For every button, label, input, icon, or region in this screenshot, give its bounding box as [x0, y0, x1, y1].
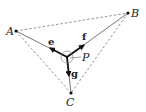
fermat-point-diagram: A B C P e f g: [0, 0, 146, 112]
label-vector-e: e: [48, 36, 54, 47]
label-a: A: [5, 25, 14, 38]
label-vector-g: g: [71, 68, 78, 79]
vector-e-arrow: [50, 48, 67, 57]
point-c-dot: [69, 91, 72, 94]
unit-vectors: [50, 45, 84, 76]
edge-ab: [16, 13, 128, 31]
label-c: C: [66, 96, 75, 109]
label-p: P: [81, 51, 90, 64]
point-b-dot: [126, 11, 129, 14]
vector-g-arrow: [67, 57, 69, 76]
point-p-dot: [66, 56, 68, 58]
p-leader-line: [70, 57, 81, 58]
edge-bc: [71, 13, 128, 93]
edge-ac: [16, 31, 71, 93]
label-vector-f: f: [82, 31, 87, 42]
point-a-dot: [14, 29, 17, 32]
label-b: B: [130, 7, 139, 20]
